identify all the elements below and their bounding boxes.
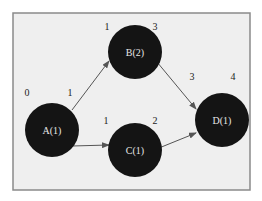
- node-d-label: D(1): [213, 115, 232, 127]
- node-a-label: A(1): [43, 125, 62, 137]
- node-a-finish-time: 1: [68, 87, 73, 98]
- node-b-finish-time: 3: [153, 21, 158, 32]
- node-c-start-time: 1: [104, 115, 109, 126]
- node-d-start-time: 3: [190, 71, 195, 82]
- node-b-start-time: 1: [105, 21, 110, 32]
- node-c-label: C(1): [126, 145, 144, 157]
- node-c-finish-time: 2: [153, 115, 158, 126]
- network-diagram: A(1) 0 1 B(2) 1 3 C(1) 1 2 D(1) 3 4: [0, 0, 262, 201]
- node-d-finish-time: 4: [231, 71, 236, 82]
- node-a-start-time: 0: [25, 87, 30, 98]
- node-b-label: B(2): [126, 47, 144, 59]
